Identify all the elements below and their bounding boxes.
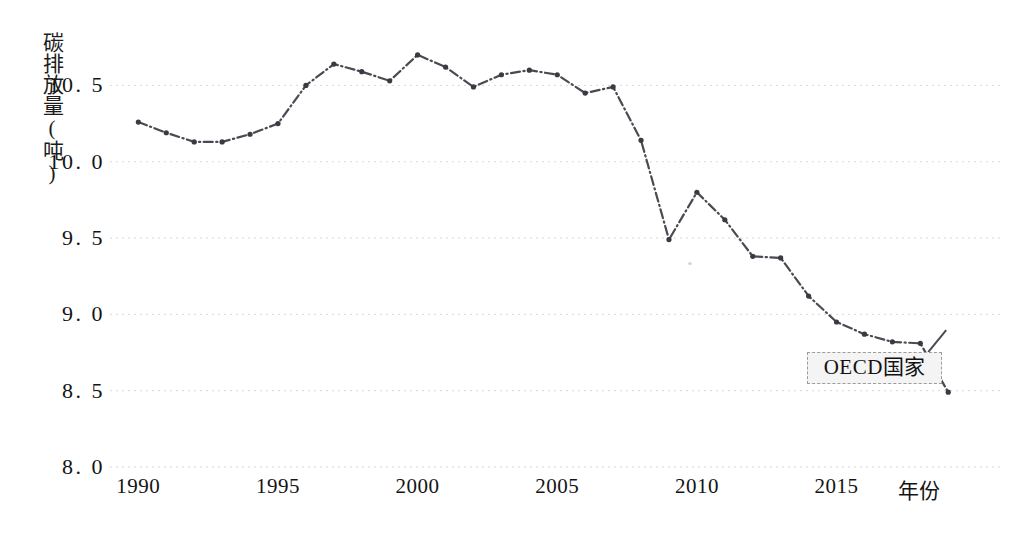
data-point <box>164 130 169 135</box>
data-point <box>918 341 923 346</box>
data-point <box>220 139 225 144</box>
data-point <box>527 68 532 73</box>
data-series-group <box>136 52 951 395</box>
data-point <box>275 121 280 126</box>
data-point <box>806 293 811 298</box>
scan-artifact-dot <box>688 262 692 265</box>
data-point <box>331 61 336 66</box>
data-point <box>136 119 141 124</box>
data-point <box>834 319 839 324</box>
data-point <box>247 132 252 137</box>
gridlines <box>110 85 1000 467</box>
data-point <box>778 255 783 260</box>
line-chart-svg <box>0 0 1013 539</box>
data-point <box>583 90 588 95</box>
data-point <box>192 139 197 144</box>
chart-root: 碳排放量(吨) 8. 08. 59. 09. 510. 010. 5 19901… <box>0 0 1013 539</box>
data-point <box>666 237 671 242</box>
data-point <box>611 84 616 89</box>
data-point <box>443 65 448 70</box>
plot-area <box>0 0 1013 539</box>
series-label-oecd: OECD国家 <box>807 352 942 384</box>
annotation-leader-line <box>928 330 946 352</box>
data-point <box>303 83 308 88</box>
data-point <box>387 78 392 83</box>
data-point <box>359 69 364 74</box>
data-point <box>946 390 951 395</box>
data-point <box>890 339 895 344</box>
data-point <box>722 217 727 222</box>
data-point <box>638 138 643 143</box>
leader-line <box>928 330 946 352</box>
data-point <box>415 52 420 57</box>
data-point <box>862 332 867 337</box>
series-line-0 <box>138 55 948 392</box>
data-point <box>555 72 560 77</box>
data-point <box>750 254 755 259</box>
data-point <box>694 190 699 195</box>
data-point <box>471 84 476 89</box>
data-point <box>499 72 504 77</box>
